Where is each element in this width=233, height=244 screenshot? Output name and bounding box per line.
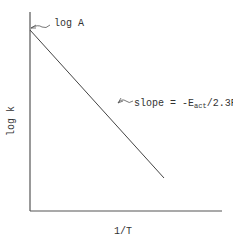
slope-pointer-arrow — [118, 98, 133, 103]
slope-label-suffix: /2.3R — [207, 98, 233, 109]
y-axis-label: log k — [6, 106, 17, 136]
slope-label: slope = -Eact/2.3R — [134, 98, 233, 110]
plot-area — [0, 0, 233, 244]
slope-label-prefix: slope = -E — [134, 98, 194, 109]
x-axis-label: 1/T — [114, 226, 132, 237]
intercept-pointer-arrow — [31, 25, 50, 28]
slope-label-subscript: act — [194, 102, 207, 110]
intercept-label: log A — [54, 18, 84, 29]
